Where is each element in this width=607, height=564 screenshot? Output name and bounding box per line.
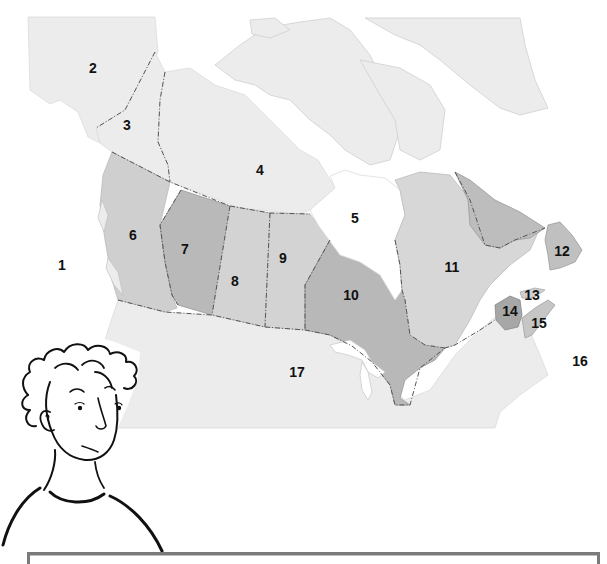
answer-bar [27,552,600,564]
